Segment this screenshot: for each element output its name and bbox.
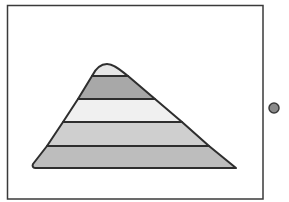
pyramid-layer-5	[33, 146, 236, 168]
pyramid-layer-4	[47, 122, 209, 146]
side-marker-dot	[269, 103, 279, 113]
pyramid-diagram	[0, 0, 289, 202]
